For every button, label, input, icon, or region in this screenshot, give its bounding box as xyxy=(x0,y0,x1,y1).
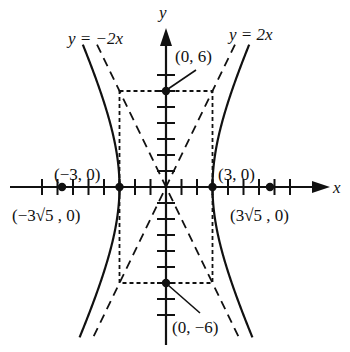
point-focus-left xyxy=(58,183,66,191)
y-axis-label: y xyxy=(157,3,167,22)
point-vertex-right xyxy=(208,183,216,191)
label-co-vertex-top: (0, 6) xyxy=(175,47,212,66)
label-vertex-left: (−3, 0) xyxy=(54,165,100,184)
asymptote-label-positive: y = 2x xyxy=(227,25,273,44)
label-co-vertex-bottom: (0, −6) xyxy=(172,318,218,337)
asymptote-label-negative: y = −2x xyxy=(66,29,123,48)
x-axis-arrow-icon xyxy=(312,181,330,193)
y-axis-arrow-icon xyxy=(160,28,172,46)
label-focus-right: (3√5 , 0) xyxy=(230,206,289,225)
x-axis-label: x xyxy=(332,178,341,197)
leader-co-vertex-top xyxy=(168,70,196,89)
point-vertex-left xyxy=(115,183,123,191)
label-vertex-right: (3, 0) xyxy=(218,165,255,184)
point-focus-right xyxy=(266,183,274,191)
label-focus-left: (−3√5 , 0) xyxy=(12,206,81,225)
hyperbola-diagram: y x y = −2x y = 2x (0, 6) (0, −6) (−3, 0… xyxy=(0,0,350,352)
